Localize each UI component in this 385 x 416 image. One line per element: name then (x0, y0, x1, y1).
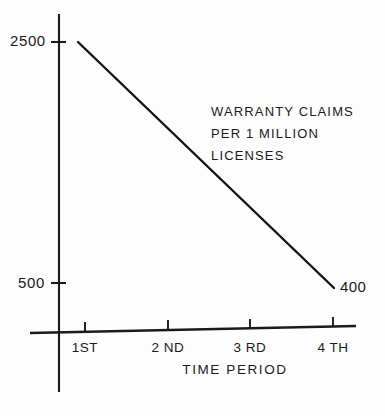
x-axis-title: TIME PERIOD (175, 363, 295, 377)
x-axis-tick-label-4th: 4 TH (303, 341, 363, 355)
x-axis-tick-label-2nd: 2 ND (138, 341, 198, 355)
series-annotation: WARRANTY CLAIMS PER 1 MILLION LICENSES (211, 104, 354, 170)
series-annotation-line-2: PER 1 MILLION (211, 126, 354, 141)
y-axis-tick-label-2500: 2500 (10, 33, 46, 48)
x-axis-tick-label-3rd: 3 RD (220, 341, 280, 355)
series-annotation-line-3: LICENSES (211, 148, 354, 163)
chart-figure: 2500 500 1ST 2 ND 3 RD 4 TH TIME PERIOD … (0, 0, 385, 416)
series-annotation-line-1: WARRANTY CLAIMS (211, 104, 354, 119)
y-axis-tick-label-500: 500 (18, 275, 45, 290)
x-axis-line (30, 326, 356, 333)
x-axis-tick-label-1st: 1ST (55, 341, 115, 355)
data-endpoint-value-label: 400 (340, 279, 366, 294)
